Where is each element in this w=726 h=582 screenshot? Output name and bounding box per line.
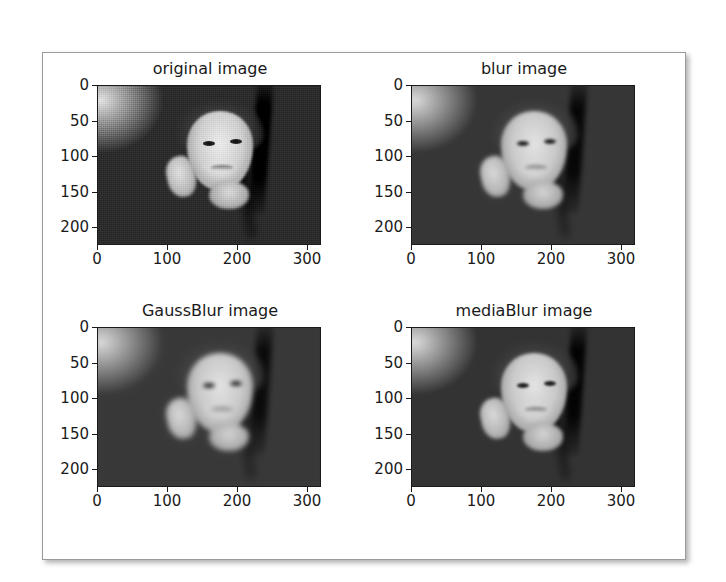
axes-original-image	[97, 85, 321, 245]
image-blur	[412, 86, 634, 244]
xtick-label: 300	[284, 252, 330, 267]
xtick-label: 200	[214, 494, 260, 509]
image-grain-overlay	[98, 328, 320, 486]
matplotlib-figure-card: original image	[42, 52, 686, 560]
subplot-blur-image: blur image	[365, 59, 637, 299]
xtick-label: 100	[458, 252, 504, 267]
xtick-label: 100	[144, 252, 190, 267]
xtick-label: 200	[528, 252, 574, 267]
image-grain-overlay	[412, 86, 634, 244]
ytick-label: 50	[365, 356, 403, 371]
ytick-label: 100	[51, 149, 89, 164]
image-grain-overlay	[98, 86, 320, 244]
image-mediablur	[412, 328, 634, 486]
subplot-gaussblur-image: GaussBlur image	[51, 301, 323, 541]
ytick-label: 0	[51, 78, 89, 93]
subplot-mediablur-image: mediaBlur image	[365, 301, 637, 541]
xtick-label: 300	[598, 252, 644, 267]
xtick-label: 100	[144, 494, 190, 509]
ytick-label: 150	[365, 185, 403, 200]
axes-gaussblur-image	[97, 327, 321, 487]
subplot-title-mediablur: mediaBlur image	[411, 301, 637, 321]
subplot-title-blur: blur image	[411, 59, 637, 79]
ytick-label: 50	[365, 114, 403, 129]
ytick-label: 150	[51, 185, 89, 200]
ytick-label: 0	[365, 78, 403, 93]
xtick-label: 0	[74, 252, 120, 267]
xtick-label: 0	[388, 252, 434, 267]
ytick-label: 0	[51, 320, 89, 335]
ytick-label: 200	[365, 220, 403, 235]
subplot-grid: original image	[43, 53, 685, 559]
xtick-label: 300	[598, 494, 644, 509]
ytick-label: 200	[51, 220, 89, 235]
image-gaussblur	[98, 328, 320, 486]
subplot-title-gaussblur: GaussBlur image	[97, 301, 323, 321]
xtick-label: 100	[458, 494, 504, 509]
xtick-label: 300	[284, 494, 330, 509]
subplot-original-image: original image	[51, 59, 323, 299]
xtick-label: 200	[214, 252, 260, 267]
ytick-label: 0	[365, 320, 403, 335]
ytick-label: 100	[365, 149, 403, 164]
image-original	[98, 86, 320, 244]
axes-blur-image	[411, 85, 635, 245]
ytick-label: 150	[365, 427, 403, 442]
xtick-label: 0	[388, 494, 434, 509]
image-grain-overlay	[412, 328, 634, 486]
ytick-label: 200	[51, 462, 89, 477]
ytick-label: 200	[365, 462, 403, 477]
subplot-title-original: original image	[97, 59, 323, 79]
xtick-label: 200	[528, 494, 574, 509]
axes-mediablur-image	[411, 327, 635, 487]
ytick-label: 100	[51, 391, 89, 406]
ytick-label: 50	[51, 356, 89, 371]
ytick-label: 50	[51, 114, 89, 129]
xtick-label: 0	[74, 494, 120, 509]
ytick-label: 150	[51, 427, 89, 442]
ytick-label: 100	[365, 391, 403, 406]
